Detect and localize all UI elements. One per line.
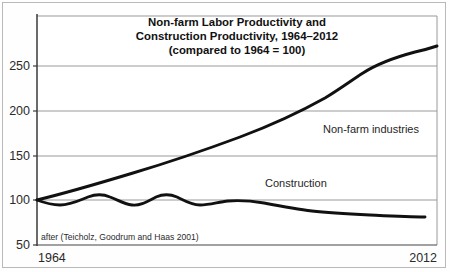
chart-title-line2: Construction Productivity, 1964–2012 xyxy=(136,30,338,42)
x-tick-label-2012: 2012 xyxy=(409,251,437,265)
series-label-construction: Construction xyxy=(265,177,327,189)
series-label-nonfarm-industries: Non-farm industries xyxy=(323,123,419,135)
chart-title-line1: Non-farm Labor Productivity and xyxy=(148,16,326,28)
source-attribution: after (Teicholz, Goodrum and Haas 2001) xyxy=(41,232,199,242)
productivity-line-chart: 250 200 150 100 50 1964 2012 Non-farm La… xyxy=(0,0,450,272)
chart-title-line3: (compared to 1964 = 100) xyxy=(169,44,306,56)
y-tick-label-100: 100 xyxy=(9,193,30,207)
y-tick-label-250: 250 xyxy=(9,59,30,73)
y-tick-label-200: 200 xyxy=(9,104,30,118)
chart-figure: 250 200 150 100 50 1964 2012 Non-farm La… xyxy=(0,0,450,272)
y-tick-label-50: 50 xyxy=(16,238,30,252)
x-tick-label-1964: 1964 xyxy=(38,251,66,265)
y-tick-label-150: 150 xyxy=(9,149,30,163)
